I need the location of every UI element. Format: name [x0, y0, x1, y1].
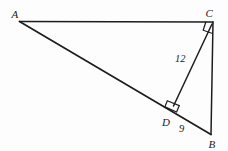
right-angle-at-D: [165, 101, 179, 112]
vertex-label-D: D: [161, 116, 170, 128]
segment-AB: [20, 22, 212, 135]
vertex-label-A: A: [11, 8, 19, 20]
segment-CD: [174, 24, 213, 106]
segment-AC: [20, 22, 214, 23]
vertex-label-C: C: [206, 7, 214, 19]
measure-label-CD: 12: [175, 53, 186, 64]
geometry-diagram: A C B D 12 9: [0, 0, 228, 151]
measure-label-DB: 9: [179, 123, 185, 134]
vertex-label-B: B: [209, 138, 216, 150]
segment-CB: [211, 22, 213, 135]
geometry-figure-canvas: A C B D 12 9: [0, 0, 228, 151]
